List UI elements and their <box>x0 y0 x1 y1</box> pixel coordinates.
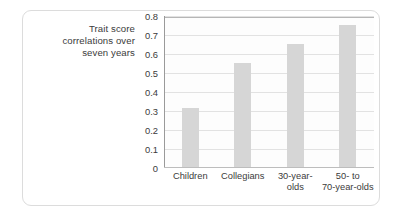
bar <box>182 108 199 167</box>
y-axis-title-line-3: seven years <box>27 47 135 59</box>
y-axis-tick-label: 0.6 <box>145 49 158 60</box>
x-axis-category-label: 30-year-olds <box>269 171 322 194</box>
y-axis-tick-label: 0.8 <box>145 11 158 22</box>
y-axis-tick-label: 0.7 <box>145 30 158 41</box>
y-axis-tick-label: 0.4 <box>145 87 158 98</box>
bar <box>234 63 251 167</box>
x-axis-category-label-line: Collegians <box>217 171 270 182</box>
x-axis-category-label-line: 30-year- <box>269 171 322 182</box>
y-axis-tick-label: 0 <box>153 163 158 174</box>
x-axis-category-labels: ChildrenCollegians30-year-olds50- to70-y… <box>164 171 374 203</box>
x-axis-category-label: Children <box>164 171 217 182</box>
bar-series <box>164 16 374 167</box>
bar <box>339 25 356 168</box>
x-axis-line <box>164 167 374 168</box>
y-axis-title-line-1: Trait score <box>27 23 135 35</box>
x-axis-category-label: 50- to70-year-olds <box>322 171 375 194</box>
x-axis-category-label-line: olds <box>269 182 322 193</box>
plot-area <box>164 16 374 168</box>
y-axis-title: Trait score correlations over seven year… <box>27 23 135 60</box>
y-axis-tick-label: 0.1 <box>145 144 158 155</box>
x-axis-category-label: Collegians <box>217 171 270 182</box>
chart-plot-wrapper: 0.80.70.60.50.40.30.20.10 <box>136 16 374 168</box>
y-axis-title-line-2: correlations over <box>27 35 135 47</box>
y-axis-tick-label: 0.2 <box>145 125 158 136</box>
bar <box>287 44 304 167</box>
y-axis-tick-labels: 0.80.70.60.50.40.30.20.10 <box>136 16 161 168</box>
x-axis-category-label-line: 50- to <box>322 171 375 182</box>
x-axis-category-label-line: Children <box>164 171 217 182</box>
chart-card: Trait score correlations over seven year… <box>22 10 380 206</box>
y-axis-tick-label: 0.5 <box>145 68 158 79</box>
y-axis-tick-label: 0.3 <box>145 106 158 117</box>
x-axis-category-label-line: 70-year-olds <box>322 182 375 193</box>
